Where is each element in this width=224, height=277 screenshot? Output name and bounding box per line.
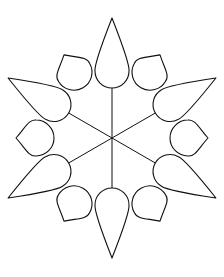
spoke-line xyxy=(69,138,112,163)
inner-petal xyxy=(170,120,208,156)
inner-petal xyxy=(125,179,175,230)
outer-petal xyxy=(95,188,129,258)
outer-petal xyxy=(0,63,77,128)
inner-petal xyxy=(125,46,175,97)
flower-drawing xyxy=(0,0,224,277)
outer-petal xyxy=(147,148,224,213)
outer-petal xyxy=(147,63,224,128)
petal-group xyxy=(0,18,224,258)
spoke-line xyxy=(112,113,155,138)
inner-petal xyxy=(48,179,98,230)
inner-petal xyxy=(16,120,54,156)
spoke-line xyxy=(69,113,112,138)
spoke-line xyxy=(112,138,155,163)
outer-petal xyxy=(95,18,129,88)
inner-petal xyxy=(48,46,98,97)
outer-petal xyxy=(0,148,77,213)
